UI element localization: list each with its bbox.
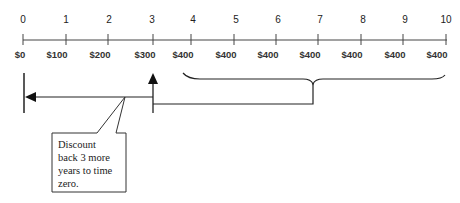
cash-flow-label: $400 [341,49,362,60]
cash-flow-label: $400 [215,49,236,60]
cash-flow-label: $400 [257,49,278,60]
year-three-arrow [148,73,158,113]
arrowhead-up-icon [148,73,158,84]
annuity-brace [183,73,445,84]
cash-flow-label: $400 [384,49,405,60]
brace-connector [153,83,313,104]
cash-flow-label: $200 [89,49,110,60]
period-labels: 0 1 2 3 4 5 6 7 8 9 10 [20,14,452,25]
discount-arrow [25,92,153,102]
period-label: 6 [275,14,281,25]
cash-flow-label: $400 [299,49,320,60]
cash-flow-label: $400 [426,49,447,60]
period-label: 5 [233,14,239,25]
period-label: 8 [360,14,366,25]
period-label: 9 [402,14,408,25]
callout-line: back 3 more [58,151,126,164]
period-label: 2 [106,14,112,25]
period-label: 0 [20,14,26,25]
cash-flow-label: $0 [15,49,26,60]
cash-flow-label: $300 [134,49,155,60]
period-label: 3 [149,14,155,25]
arrowhead-left-icon [25,92,36,102]
cash-flow-label: $400 [172,49,193,60]
period-label: 1 [63,14,69,25]
callout-line: Discount [58,138,126,151]
period-label: 10 [440,14,452,25]
callout-text: Discount back 3 more years to time zero. [58,138,126,190]
timeline-axis [23,34,447,45]
period-label: 4 [190,14,196,25]
callout-line: years to time [58,164,126,177]
cash-flow-labels: $0 $100 $200 $300 $400 $400 $400 $400 $4… [15,49,448,60]
cash-flow-label: $100 [46,49,67,60]
period-label: 7 [317,14,323,25]
callout-line: zero. [58,177,126,190]
